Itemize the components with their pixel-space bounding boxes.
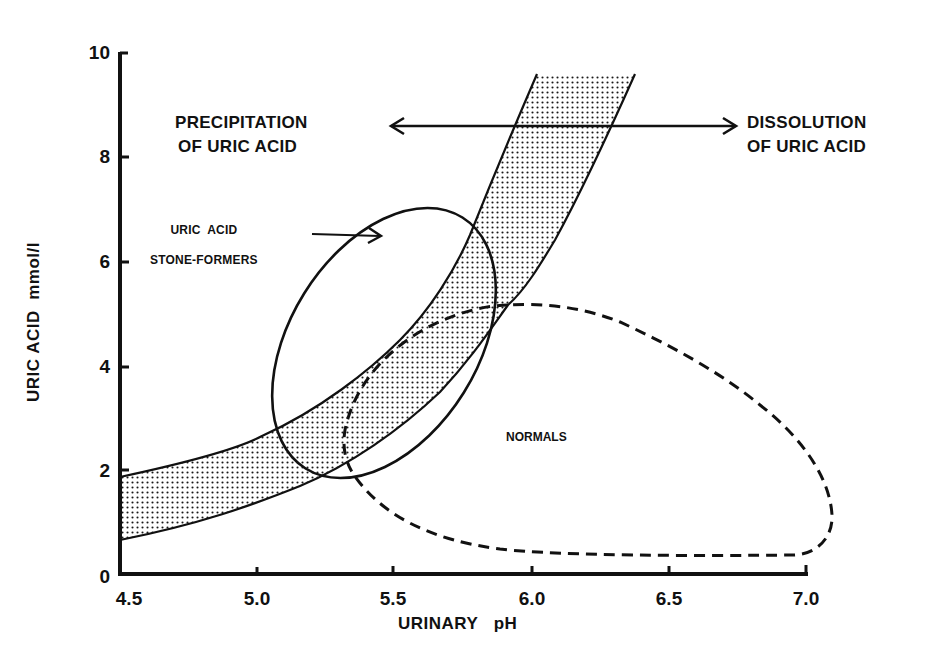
x-axis-label: URINARY pH [398,614,517,634]
stone-formers-line-1: URIC ACID [150,215,258,245]
chart-canvas [0,0,950,669]
y-tick-label-10: 10 [80,42,110,64]
precipitation-line-1: PRECIPITATION [175,111,308,135]
x-tick-label-4-5: 4.5 [116,588,142,610]
x-tick-label-6-5: 6.5 [656,588,682,610]
stone-formers-annotation: URIC ACID STONE-FORMERS [150,215,258,275]
y-tick-label-0: 0 [80,566,110,588]
y-tick-label-8: 8 [80,146,110,168]
x-tick-label-6-0: 6.0 [519,588,545,610]
stone-formers-line-2: STONE-FORMERS [150,245,258,275]
x-tick-label-7-0: 7.0 [793,588,819,610]
normals-annotation: NORMALS [506,430,567,444]
dissolution-line-1: DISSOLUTION [747,111,866,135]
dissolution-line-2: OF URIC ACID [747,135,866,159]
y-tick-label-2: 2 [80,460,110,482]
precipitation-line-2: OF URIC ACID [175,135,308,159]
x-tick-label-5-0: 5.0 [244,588,270,610]
x-tick-label-5-5: 5.5 [380,588,406,610]
y-tick-label-4: 4 [80,356,110,378]
dissolution-annotation: DISSOLUTION OF URIC ACID [747,111,866,159]
stone-formers-pointer-line [312,234,380,236]
y-tick-label-6: 6 [80,251,110,273]
y-axis-label: URIC ACID mmol/l [24,242,44,402]
precipitation-annotation: PRECIPITATION OF URIC ACID [175,111,308,159]
